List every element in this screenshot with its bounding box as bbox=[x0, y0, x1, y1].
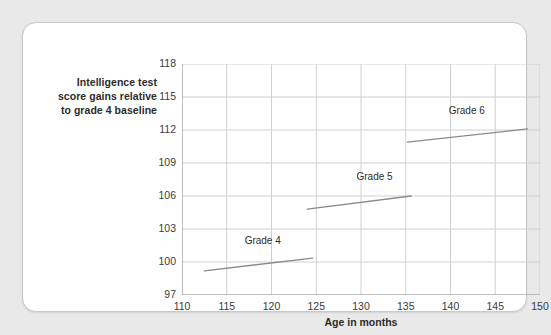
x-tick-label: 140 bbox=[431, 300, 471, 312]
y-axis-title: Intelligence test score gains relative t… bbox=[53, 75, 157, 117]
y-axis-title-line-1: Intelligence test bbox=[53, 75, 157, 89]
series-label-grade-6: Grade 6 bbox=[449, 105, 485, 116]
x-tick-label: 130 bbox=[341, 300, 381, 312]
x-tick-label: 125 bbox=[296, 300, 336, 312]
x-tick-label: 150 bbox=[520, 300, 551, 312]
regression-line-grade-6 bbox=[408, 129, 528, 142]
regression-line-grade-4 bbox=[204, 258, 312, 271]
y-tick-label: 100 bbox=[144, 255, 176, 267]
series-label-grade-5: Grade 5 bbox=[357, 171, 393, 182]
x-tick-label: 115 bbox=[207, 300, 247, 312]
y-tick-label: 115 bbox=[144, 90, 176, 102]
y-tick-label: 106 bbox=[144, 189, 176, 201]
x-tick-label: 135 bbox=[386, 300, 426, 312]
figure-card: Intelligence test score gains relative t… bbox=[22, 22, 527, 312]
regression-lines bbox=[204, 129, 527, 271]
y-axis-title-line-2: score gains relative bbox=[53, 89, 157, 103]
y-axis-title-line-3: to grade 4 baseline bbox=[53, 103, 157, 117]
y-tick-label: 112 bbox=[144, 123, 176, 135]
y-tick-label: 118 bbox=[144, 57, 176, 69]
page-root: Intelligence test score gains relative t… bbox=[0, 0, 551, 335]
x-tick-label: 145 bbox=[475, 300, 515, 312]
x-axis-title: Age in months bbox=[182, 316, 540, 328]
x-tick-label: 120 bbox=[252, 300, 292, 312]
y-tick-label: 97 bbox=[144, 288, 176, 300]
y-tick-label: 103 bbox=[144, 222, 176, 234]
y-tick-label: 109 bbox=[144, 156, 176, 168]
x-tick-label: 110 bbox=[162, 300, 202, 312]
series-label-grade-4: Grade 4 bbox=[245, 235, 281, 246]
regression-line-grade-5 bbox=[307, 196, 411, 209]
